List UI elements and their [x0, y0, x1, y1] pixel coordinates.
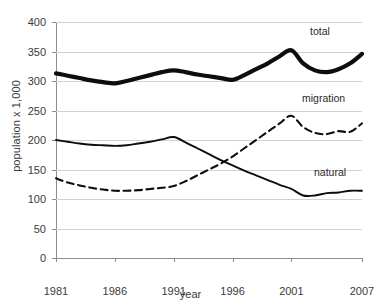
plot-area: 050100150200250300350400 198119861991199…	[56, 22, 362, 258]
series-label-natural: natural	[314, 167, 346, 178]
x-tick-label: 2001	[268, 286, 314, 297]
series-label-migration: migration	[302, 93, 345, 104]
x-tick-mark	[233, 258, 234, 262]
y-tick-label: 350	[0, 47, 46, 58]
y-tick-label: 400	[0, 17, 46, 28]
y-tick-label: 50	[0, 224, 46, 235]
y-tick-label: 200	[0, 135, 46, 146]
x-axis-line	[56, 258, 362, 259]
x-tick-mark	[174, 258, 175, 262]
x-tick-mark	[362, 258, 363, 262]
x-tick-label: 1996	[210, 286, 256, 297]
x-tick-label: 1991	[151, 286, 197, 297]
series-line-total	[56, 50, 362, 83]
y-axis-title: population x 1,000	[10, 46, 26, 206]
x-tick-mark	[291, 258, 292, 262]
y-tick-label: 0	[0, 253, 46, 264]
series-label-total: total	[310, 26, 330, 37]
y-tick-label: 300	[0, 76, 46, 87]
x-tick-label: 2007	[339, 286, 381, 297]
x-tick-mark	[56, 258, 57, 262]
series-lines	[56, 22, 362, 258]
y-tick-label: 100	[0, 194, 46, 205]
y-tick-label: 250	[0, 106, 46, 117]
y-tick-label: 150	[0, 165, 46, 176]
x-tick-label: 1981	[33, 286, 79, 297]
population-line-chart: population x 1,000 year 0501001502002503…	[0, 0, 381, 308]
x-tick-mark	[115, 258, 116, 262]
x-tick-label: 1986	[92, 286, 138, 297]
